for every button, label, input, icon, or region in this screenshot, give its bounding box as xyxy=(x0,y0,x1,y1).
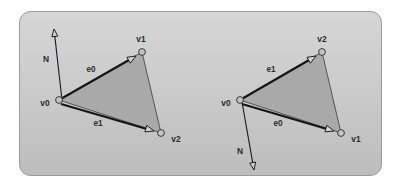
vertex-dot-v0-right xyxy=(237,97,244,104)
vertex-label-v2-right: v2 xyxy=(317,34,327,44)
vertex-dot-v2-right xyxy=(319,49,326,56)
vertex-label-v0-right: v0 xyxy=(221,98,231,108)
edge-label-e1-left: e1 xyxy=(93,119,103,128)
vertex-label-v1-right: v1 xyxy=(351,134,361,144)
edge-label-e0-left: e0 xyxy=(86,65,96,74)
normal-label-right: N xyxy=(237,146,243,156)
edge-label-e1-right: e1 xyxy=(266,65,276,74)
edge-label-e0-right: e0 xyxy=(273,119,283,128)
vertex-dot-v2-left xyxy=(158,130,165,137)
vertex-dot-v1-left xyxy=(139,49,146,56)
diagram-root: v0 v1 v2 e0 e1 N xyxy=(0,0,402,190)
vertex-label-v0-left: v0 xyxy=(40,98,50,108)
vertex-label-v1-left: v1 xyxy=(136,34,146,44)
vertex-dot-v0-left xyxy=(56,97,63,104)
vertex-label-v2-left: v2 xyxy=(171,134,181,144)
vertex-dot-v1-right xyxy=(338,130,345,137)
triangle-normal-diagram: v0 v1 v2 e0 e1 N xyxy=(0,0,402,190)
normal-label-left: N xyxy=(43,54,49,64)
